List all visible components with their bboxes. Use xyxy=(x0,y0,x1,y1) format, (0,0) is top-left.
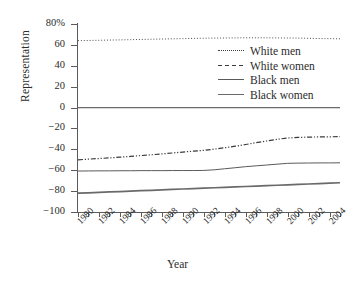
legend-item[interactable]: White women xyxy=(218,59,350,74)
y-tick xyxy=(71,87,77,88)
y-tick xyxy=(71,66,77,67)
series-line xyxy=(78,163,340,171)
legend-swatch-icon xyxy=(218,91,244,99)
y-tick xyxy=(71,24,77,25)
legend-swatch-icon xyxy=(218,47,244,55)
y-tick xyxy=(71,128,77,129)
y-tick xyxy=(71,212,77,213)
legend-item[interactable]: White men xyxy=(218,44,350,59)
legend-item[interactable]: Black women xyxy=(218,88,350,103)
y-tick-label: 80% xyxy=(19,17,65,28)
chart-figure: Representation Year 80%6040200−20−40−60−… xyxy=(0,0,355,285)
y-tick-label: −40 xyxy=(19,142,65,153)
x-axis-label: Year xyxy=(0,258,355,270)
chart-legend: White menWhite womenBlack menBlack women xyxy=(218,44,350,102)
y-tick xyxy=(71,108,77,109)
y-tick-label: −100 xyxy=(19,205,65,216)
legend-item-label: White men xyxy=(250,45,301,57)
y-tick-label: 0 xyxy=(19,101,65,112)
legend-item-label: White women xyxy=(250,60,315,72)
series-line xyxy=(78,183,340,193)
legend-item[interactable]: Black men xyxy=(218,73,350,88)
series-line xyxy=(78,38,340,41)
legend-swatch-icon xyxy=(218,62,244,70)
y-tick-label: −80 xyxy=(19,184,65,195)
y-tick-label: 20 xyxy=(19,80,65,91)
y-tick-label: −20 xyxy=(19,121,65,132)
y-tick xyxy=(71,170,77,171)
y-tick-label: 60 xyxy=(19,38,65,49)
y-tick-label: 40 xyxy=(19,59,65,70)
y-tick xyxy=(71,191,77,192)
legend-swatch-icon xyxy=(218,76,244,84)
series-line xyxy=(78,137,340,160)
y-tick xyxy=(71,149,77,150)
legend-item-label: Black men xyxy=(250,74,300,86)
y-tick-label: −60 xyxy=(19,163,65,174)
legend-item-label: Black women xyxy=(250,89,314,101)
y-tick xyxy=(71,45,77,46)
